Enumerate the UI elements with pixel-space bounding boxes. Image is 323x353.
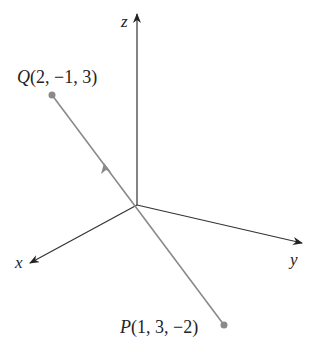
y-axis-label: y bbox=[288, 250, 298, 269]
diagram-canvas: z x y Q(2, −1, 3) P(1, 3, −2) bbox=[0, 0, 323, 353]
x-axis bbox=[30, 205, 137, 263]
point-q-label: Q(2, −1, 3) bbox=[17, 67, 97, 88]
x-axis-label: x bbox=[14, 253, 23, 272]
vector-segment-pq bbox=[52, 95, 224, 325]
z-axis-label: z bbox=[120, 12, 128, 31]
point-p-label: P(1, 3, −2) bbox=[119, 317, 198, 338]
point-p bbox=[221, 322, 228, 329]
y-axis bbox=[137, 205, 302, 243]
point-q bbox=[49, 92, 56, 99]
